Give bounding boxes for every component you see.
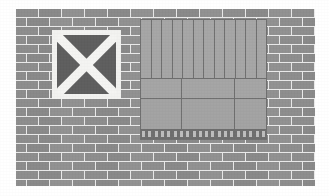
brick <box>96 144 118 152</box>
brick <box>16 72 26 80</box>
brick <box>16 45 38 53</box>
brick <box>119 36 141 44</box>
shutter-slat <box>183 20 194 78</box>
scene-canvas: Brick wall with boarded window and rolle… <box>0 0 329 196</box>
brick <box>39 9 61 17</box>
brick <box>85 99 107 107</box>
brick <box>165 144 187 152</box>
brick <box>62 99 84 107</box>
brick <box>223 153 245 161</box>
brick <box>280 18 302 26</box>
brick <box>50 126 72 134</box>
shutter-lower-band <box>141 99 266 131</box>
brick <box>303 162 315 170</box>
brick <box>246 9 268 17</box>
brick <box>177 171 199 179</box>
shutter-rail-tick <box>142 131 145 137</box>
brick <box>73 18 95 26</box>
brick <box>85 117 107 125</box>
brick <box>257 144 279 152</box>
brick <box>292 45 314 53</box>
brick <box>16 153 38 161</box>
brick <box>27 144 49 152</box>
brick <box>50 18 72 26</box>
brick <box>27 18 49 26</box>
shutter-rail-tick <box>161 131 164 137</box>
brick <box>50 108 72 116</box>
brick <box>119 90 141 98</box>
brick <box>16 18 26 26</box>
brick <box>269 171 291 179</box>
shutter-slat <box>194 20 205 78</box>
boarded-window-label: Boarded window with X cross bracing <box>52 30 53 31</box>
brick <box>119 126 141 134</box>
brick <box>16 99 38 107</box>
brick <box>27 54 49 62</box>
brick <box>108 135 130 143</box>
shutter-slat <box>173 20 184 78</box>
brick <box>16 135 38 143</box>
roller-shutter-panel[interactable]: Roller shutter over shopfront opening <box>140 19 267 140</box>
brick <box>39 99 61 107</box>
shutter-bottom-rail[interactable] <box>141 129 266 139</box>
shutter-slat <box>141 20 152 78</box>
brick <box>303 72 315 80</box>
brick <box>62 117 84 125</box>
brick <box>280 144 302 152</box>
brick <box>303 108 315 116</box>
brick <box>303 180 315 186</box>
brick <box>16 27 38 35</box>
brick <box>96 108 118 116</box>
brick <box>96 180 118 186</box>
brick <box>73 144 95 152</box>
brick <box>39 135 61 143</box>
brick-row <box>16 180 303 186</box>
brick-row <box>16 144 303 153</box>
shutter-rail-tick <box>218 131 221 137</box>
brick <box>280 90 302 98</box>
brick <box>292 99 314 107</box>
brick <box>85 171 107 179</box>
brick <box>246 153 268 161</box>
brick <box>269 63 291 71</box>
brick <box>292 9 314 17</box>
brick <box>280 126 302 134</box>
brick <box>303 90 315 98</box>
shutter-slat <box>204 20 215 78</box>
brick <box>27 36 49 44</box>
brick <box>119 162 141 170</box>
brick <box>234 144 256 152</box>
brick <box>27 126 49 134</box>
shutter-slat-group <box>141 20 266 78</box>
boarded-window-x-panel[interactable]: Boarded window with X cross bracing <box>52 30 121 99</box>
brick <box>96 126 118 134</box>
brick <box>257 180 279 186</box>
shutter-slat <box>162 20 173 78</box>
shutter-slat <box>236 20 247 78</box>
brick <box>246 171 268 179</box>
brick-row <box>16 162 303 171</box>
brick <box>73 162 95 170</box>
brick <box>16 117 38 125</box>
brick <box>154 171 176 179</box>
brick <box>39 171 61 179</box>
brick <box>108 153 130 161</box>
brick <box>62 153 84 161</box>
brick <box>142 162 164 170</box>
brick <box>131 9 153 17</box>
shutter-mid-band <box>141 78 266 98</box>
brick <box>200 171 222 179</box>
brick <box>269 117 291 125</box>
brick <box>50 144 72 152</box>
shutter-rail-tick <box>262 131 265 137</box>
brick <box>234 180 256 186</box>
brick <box>303 18 315 26</box>
brick <box>73 108 95 116</box>
shutter-rail-tick <box>237 131 240 137</box>
brick <box>85 135 107 143</box>
brick <box>27 180 49 186</box>
brick <box>269 99 291 107</box>
brick <box>96 162 118 170</box>
brick <box>292 153 314 161</box>
brick <box>292 81 314 89</box>
